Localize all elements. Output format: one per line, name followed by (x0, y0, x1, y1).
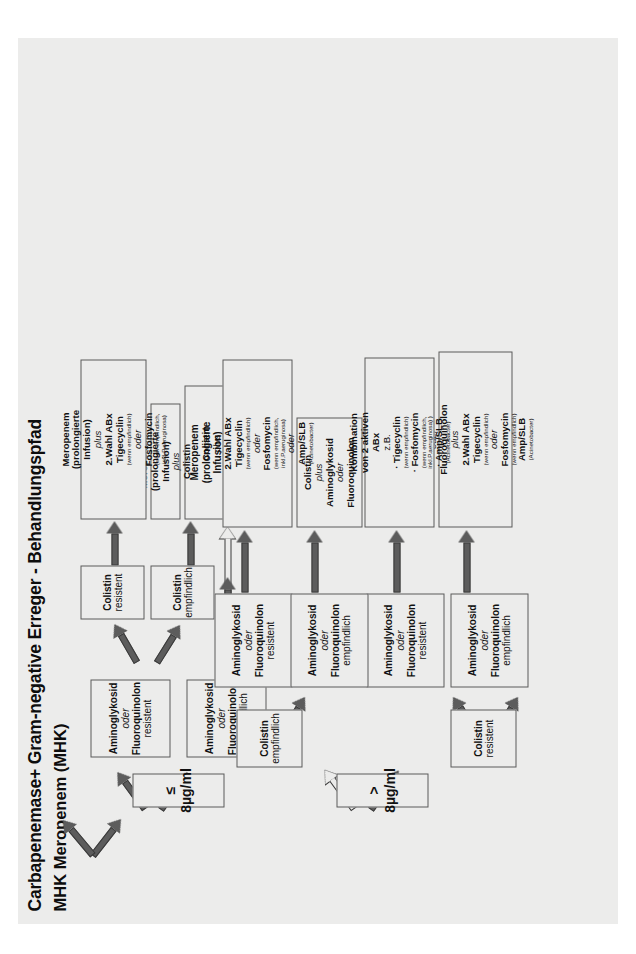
page-root: Carbapenemase+ Gram-negative Erreger - B… (0, 0, 636, 954)
branch-low-label: ≤ 8µg/ml (133, 774, 225, 808)
node-line: Colistin (472, 720, 483, 757)
node-line: resistent (142, 700, 153, 738)
node-low-colistin-emp: Colistin empfindlich (151, 566, 215, 620)
outcome-line: von 2 aktiven (359, 412, 370, 473)
node-line: Aminoglykosid (231, 605, 242, 677)
node-line: oder (318, 631, 329, 651)
node-line: Aminoglykosid (108, 683, 119, 755)
node-line: Colistin (258, 720, 269, 757)
arrow-lowres-to-colistin-emp (157, 623, 181, 662)
node-line: resistent (484, 720, 495, 758)
rotated-diagram-canvas: Carbapenemase+ Gram-negative Erreger - B… (19, 38, 594, 918)
outcome-line: ABx (370, 433, 381, 452)
node-high-colemp-amino-res: Aminoglykosid oder Fluoroquinolon resist… (215, 594, 293, 688)
branch-high-label: > 8µg/ml (337, 774, 429, 808)
node-line: Fluoroquinolon (406, 604, 417, 677)
branch-high-text: > 8µg/ml (367, 768, 399, 813)
diagram-paper: Carbapenemase+ Gram-negative Erreger - B… (18, 38, 618, 924)
node-line: resistent (113, 574, 124, 612)
arrow-lowres-to-colistin-res (114, 623, 137, 663)
outcome-line: (Acinetobacter) (528, 419, 535, 461)
node-line: oder (478, 631, 489, 651)
node-high-colres-amino-emp: Aminoglykosid oder Fluoroquinolon empfin… (451, 594, 529, 688)
node-line: resistent (265, 622, 276, 660)
node-line: Aminoglykosid (383, 605, 394, 677)
outcome-line: (Acinetobacter) (444, 422, 451, 464)
node-line: Aminoglykosid (204, 683, 215, 755)
page-title: Carbapenemase+ Gram-negative Erreger - B… (25, 32, 46, 912)
outcome-box-colistin-2wahl: Colistinplus2.Wahl ABxTigecyclin(wenn em… (223, 360, 293, 528)
node-line: oder (394, 631, 405, 651)
node-line: resistent (417, 622, 428, 660)
branch-low-text: ≤ 8µg/ml (163, 768, 195, 813)
node-line: Colistin (101, 574, 112, 611)
node-high-colistin-emp: Colistin empfindlich (237, 710, 303, 768)
node-line: empfindlich (183, 567, 194, 618)
node-line: oder (242, 631, 253, 651)
outcome-line: Tigecyclin (471, 416, 482, 463)
node-line: Colistin (171, 574, 182, 611)
node-line: Fluoroquinolon (330, 604, 341, 677)
outcome-box-meropenem-2wahl: Meropenem(prolongierteInfusion)plus2.Wah… (81, 360, 147, 520)
node-line: Aminoglykosid (307, 605, 318, 677)
node-line: empfindlich (341, 615, 352, 666)
node-low-amino-res: Aminoglykosid oder Fluoroquinolon resist… (91, 680, 171, 758)
node-line: oder (119, 709, 130, 729)
node-line: Fluoroquinolon (490, 604, 501, 677)
outcome-line: (Acinetobacter) (308, 423, 315, 465)
outcome-box-kombination: Kombinationvon 2 aktivenABxz.B.· Tigecyc… (365, 358, 435, 528)
arrow-root-to-low (93, 819, 121, 855)
node-high-colistin-res: Colistin resistent (451, 710, 517, 768)
outcome-line: Colistin (182, 444, 193, 479)
node-high-colemp-amino-emp: Aminoglykosid oder Fluoroquinolon empfin… (291, 594, 369, 688)
node-line: Aminoglykosid (467, 605, 478, 677)
node-low-colistin-res: Colistin resistent (81, 566, 145, 620)
node-line: empfindlich (270, 713, 281, 764)
node-line: oder (215, 709, 226, 729)
outcome-line: oder (132, 430, 143, 449)
node-line: Fluoroquinolon (131, 682, 142, 755)
node-line: Fluoroquinolon (254, 604, 265, 677)
node-high-colres-amino-res: Aminoglykosid oder Fluoroquinolon resist… (367, 594, 445, 688)
outcome-line: plus (313, 464, 324, 482)
outcome-line: inkl.P.aeruginosa) (160, 415, 167, 464)
node-line: empfindlich (501, 615, 512, 666)
